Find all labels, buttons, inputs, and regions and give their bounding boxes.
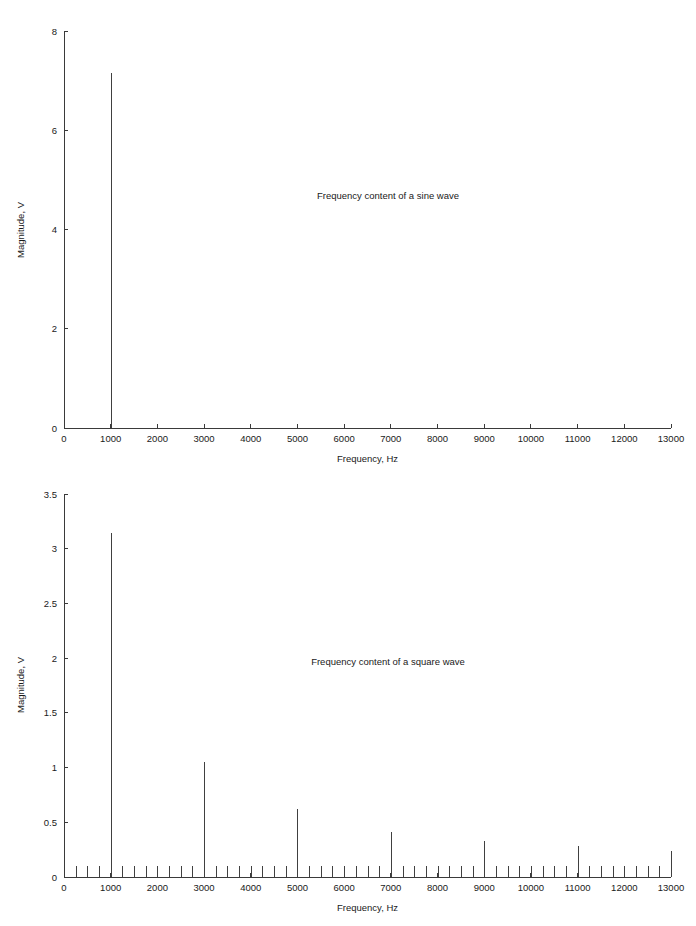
x-axis-tick-label: 10000	[518, 882, 544, 893]
square-wave-spectrum-plot: 0100020003000400050006000700080009000100…	[0, 480, 696, 926]
sine-wave-spectrum-plot: 0100020003000400050006000700080009000100…	[0, 0, 696, 480]
x-axis-title: Frequency, Hz	[337, 902, 398, 913]
y-axis-tick-label: 2	[52, 323, 57, 334]
y-axis-tick-label: 0	[52, 872, 57, 883]
x-axis-tick-label: 4000	[240, 882, 261, 893]
x-axis-tick-label: 2000	[147, 882, 168, 893]
x-axis-tick-label: 3000	[194, 882, 215, 893]
y-axis-title: Magnitude, V	[15, 656, 26, 713]
x-axis-tick-label: 12000	[611, 433, 637, 444]
x-axis-tick-label: 4000	[240, 433, 261, 444]
x-axis-tick-label: 0	[61, 433, 66, 444]
x-axis-tick-label: 9000	[474, 882, 495, 893]
x-axis-tick-label: 10000	[518, 433, 544, 444]
x-axis-tick-label: 11000	[565, 882, 591, 893]
x-axis-tick-label: 7000	[380, 882, 401, 893]
y-axis-tick-label: 0	[52, 423, 57, 434]
y-axis-tick-label: 2	[52, 653, 57, 664]
y-axis-tick-label: 3	[52, 543, 57, 554]
x-axis-tick-label: 1000	[100, 433, 121, 444]
x-axis-tick-label: 6000	[334, 882, 355, 893]
x-axis-tick-label: 12000	[611, 882, 637, 893]
x-axis-tick-label: 13000	[658, 433, 684, 444]
sine-wave-spectrum-figure: 0100020003000400050006000700080009000100…	[0, 0, 696, 480]
x-axis-tick-label: 8000	[427, 882, 448, 893]
y-axis-tick-label: 2.5	[44, 598, 57, 609]
plot-title: Frequency content of a square wave	[311, 656, 465, 667]
x-axis-tick-label: 1000	[100, 882, 121, 893]
x-axis-tick-label: 8000	[427, 433, 448, 444]
y-axis-tick-label: 4	[52, 224, 57, 235]
y-axis-title: Magnitude, V	[15, 201, 26, 258]
x-axis-tick-label: 9000	[474, 433, 495, 444]
y-axis-tick-label: 0.5	[44, 817, 57, 828]
y-axis-tick-label: 1.5	[44, 707, 57, 718]
x-axis-tick-label: 6000	[334, 433, 355, 444]
y-axis-tick-label: 3.5	[44, 489, 57, 500]
y-axis-tick-label: 1	[52, 762, 57, 773]
y-axis-tick-label: 6	[52, 125, 57, 136]
x-axis-tick-label: 7000	[380, 433, 401, 444]
x-axis-title: Frequency, Hz	[337, 453, 398, 464]
square-wave-spectrum-figure: 0100020003000400050006000700080009000100…	[0, 480, 696, 926]
x-axis-tick-label: 0	[61, 882, 66, 893]
x-axis-tick-label: 5000	[287, 433, 308, 444]
x-axis-tick-label: 11000	[565, 433, 591, 444]
x-axis-tick-label: 5000	[287, 882, 308, 893]
x-axis-tick-label: 13000	[658, 882, 684, 893]
plot-title: Frequency content of a sine wave	[317, 190, 459, 201]
x-axis-tick-label: 3000	[194, 433, 215, 444]
y-axis-tick-label: 8	[52, 26, 57, 37]
x-axis-tick-label: 2000	[147, 433, 168, 444]
